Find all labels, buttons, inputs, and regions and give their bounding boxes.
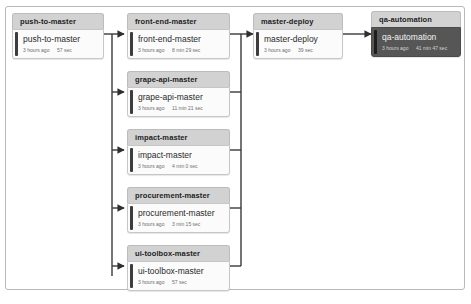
- job-timestamp: 3 hours ago: [138, 278, 172, 286]
- status-bar-icon: [130, 264, 133, 288]
- job-duration: 41 min 47 sec: [416, 44, 447, 52]
- stage-push-to-master[interactable]: push-to-master push-to-master 3 hours ag…: [12, 13, 104, 59]
- job-duration: 39 sec: [298, 46, 313, 54]
- status-bar-icon: [256, 32, 259, 56]
- stage-body-procurement-master[interactable]: procurement-master 3 hours ago 3 min 15 …: [127, 203, 230, 233]
- stage-body-qa-automation[interactable]: qa-automation 3 hours ago 41 min 47 sec: [371, 27, 461, 57]
- stage-body-grape-api-master[interactable]: grape-api-master 3 hours ago 11 min 21 s…: [127, 87, 230, 117]
- status-bar-icon: [130, 90, 133, 114]
- job-timestamp: 3 hours ago: [138, 46, 172, 54]
- job-duration: 4 min 0 sec: [172, 162, 198, 170]
- job-meta-grape-api-master: 3 hours ago 11 min 21 sec: [138, 104, 223, 112]
- job-name-ui-toolbox-master: ui-toolbox-master: [138, 266, 223, 277]
- status-bar-icon: [130, 206, 133, 230]
- status-bar-icon: [374, 30, 377, 54]
- job-timestamp: 3 hours ago: [264, 46, 298, 54]
- status-bar-icon: [130, 148, 133, 172]
- job-name-master-deploy: master-deploy: [264, 34, 336, 45]
- stage-header-procurement-master: procurement-master: [127, 187, 230, 203]
- stage-body-ui-toolbox-master[interactable]: ui-toolbox-master 3 hours ago 57 sec: [127, 261, 230, 291]
- job-name-front-end-master: front-end-master: [138, 34, 223, 45]
- stage-header-qa-automation: qa-automation: [371, 11, 461, 27]
- job-duration: 8 min 29 sec: [172, 46, 200, 54]
- stage-header-grape-api-master: grape-api-master: [127, 71, 230, 87]
- job-meta-qa-automation: 3 hours ago 41 min 47 sec: [382, 44, 454, 52]
- job-timestamp: 3 hours ago: [138, 162, 172, 170]
- job-duration: 3 min 15 sec: [172, 220, 200, 228]
- job-name-procurement-master: procurement-master: [138, 208, 223, 219]
- job-meta-master-deploy: 3 hours ago 39 sec: [264, 46, 336, 54]
- job-duration: 57 sec: [172, 278, 187, 286]
- stage-body-front-end-master[interactable]: front-end-master 3 hours ago 8 min 29 se…: [127, 29, 230, 59]
- stage-front-end-master[interactable]: front-end-master front-end-master 3 hour…: [127, 13, 230, 59]
- stage-grape-api-master[interactable]: grape-api-master grape-api-master 3 hour…: [127, 71, 230, 117]
- stage-header-ui-toolbox-master: ui-toolbox-master: [127, 245, 230, 261]
- stage-procurement-master[interactable]: procurement-master procurement-master 3 …: [127, 187, 230, 233]
- stage-impact-master[interactable]: impact-master impact-master 3 hours ago …: [127, 129, 230, 175]
- stage-body-master-deploy[interactable]: master-deploy 3 hours ago 39 sec: [253, 29, 343, 59]
- stage-body-push-to-master[interactable]: push-to-master 3 hours ago 57 sec: [12, 29, 104, 59]
- job-meta-impact-master: 3 hours ago 4 min 0 sec: [138, 162, 223, 170]
- pipeline-graph-canvas: push-to-master push-to-master 3 hours ag…: [0, 0, 471, 304]
- job-meta-ui-toolbox-master: 3 hours ago 57 sec: [138, 278, 223, 286]
- job-timestamp: 3 hours ago: [138, 220, 172, 228]
- stage-header-front-end-master: front-end-master: [127, 13, 230, 29]
- job-timestamp: 3 hours ago: [382, 44, 416, 52]
- job-meta-front-end-master: 3 hours ago 8 min 29 sec: [138, 46, 223, 54]
- status-bar-icon: [15, 32, 18, 56]
- stage-master-deploy[interactable]: master-deploy master-deploy 3 hours ago …: [253, 13, 343, 59]
- job-timestamp: 3 hours ago: [23, 46, 57, 54]
- stage-ui-toolbox-master[interactable]: ui-toolbox-master ui-toolbox-master 3 ho…: [127, 245, 230, 291]
- stage-header-impact-master: impact-master: [127, 129, 230, 145]
- job-duration: 11 min 21 sec: [172, 104, 203, 112]
- job-name-push-to-master: push-to-master: [23, 34, 97, 45]
- stage-header-push-to-master: push-to-master: [12, 13, 104, 29]
- job-meta-procurement-master: 3 hours ago 3 min 15 sec: [138, 220, 223, 228]
- stage-qa-automation[interactable]: qa-automation qa-automation 3 hours ago …: [371, 11, 461, 57]
- stage-body-impact-master[interactable]: impact-master 3 hours ago 4 min 0 sec: [127, 145, 230, 175]
- status-bar-icon: [130, 32, 133, 56]
- job-timestamp: 3 hours ago: [138, 104, 172, 112]
- job-name-grape-api-master: grape-api-master: [138, 92, 223, 103]
- job-meta-push-to-master: 3 hours ago 57 sec: [23, 46, 97, 54]
- job-name-qa-automation: qa-automation: [382, 32, 454, 43]
- job-duration: 57 sec: [57, 46, 72, 54]
- job-name-impact-master: impact-master: [138, 150, 223, 161]
- stage-header-master-deploy: master-deploy: [253, 13, 343, 29]
